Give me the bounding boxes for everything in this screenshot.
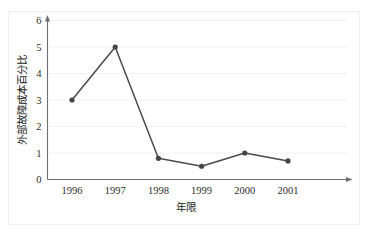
data-point-marker — [69, 97, 74, 102]
y-tick-label: 2 — [36, 121, 41, 132]
x-tick-labels: 199619971998199920002001 — [62, 185, 299, 196]
y-tick-label: 4 — [36, 68, 42, 79]
series-line — [72, 47, 288, 166]
data-point-marker — [199, 164, 204, 169]
x-axis-title: 年限 — [176, 201, 197, 213]
data-point-marker — [242, 150, 247, 155]
gridlines-group — [48, 21, 349, 154]
data-point-marker — [285, 158, 290, 163]
x-tick-label: 1996 — [62, 185, 83, 196]
y-axis-arrowhead — [45, 15, 50, 22]
x-axis-arrowhead — [346, 177, 353, 182]
y-tick-label: 3 — [36, 95, 41, 106]
x-tick-label: 1998 — [148, 185, 169, 196]
axes-group — [45, 15, 353, 182]
y-tick-label: 0 — [36, 174, 41, 185]
x-tick-label: 1999 — [191, 185, 212, 196]
plot-area: 0123456 199619971998199920002001 年限外部故障成… — [0, 0, 370, 244]
x-tick-label: 2000 — [234, 185, 255, 196]
line-chart: 0123456 199619971998199920002001 年限外部故障成… — [0, 0, 370, 244]
data-point-marker — [156, 156, 161, 161]
y-tick-label: 6 — [36, 15, 41, 26]
y-tick-label: 5 — [36, 42, 41, 53]
x-tick-label: 1997 — [105, 185, 126, 196]
x-tick-label: 2001 — [278, 185, 299, 196]
data-series-group — [69, 44, 290, 168]
y-tick-labels: 0123456 — [36, 15, 42, 185]
y-tick-label: 1 — [36, 148, 41, 159]
data-point-marker — [113, 44, 118, 49]
y-axis-title: 外部故障成本百分比 — [16, 55, 28, 145]
figure-container: 0123456 199619971998199920002001 年限外部故障成… — [0, 0, 370, 244]
